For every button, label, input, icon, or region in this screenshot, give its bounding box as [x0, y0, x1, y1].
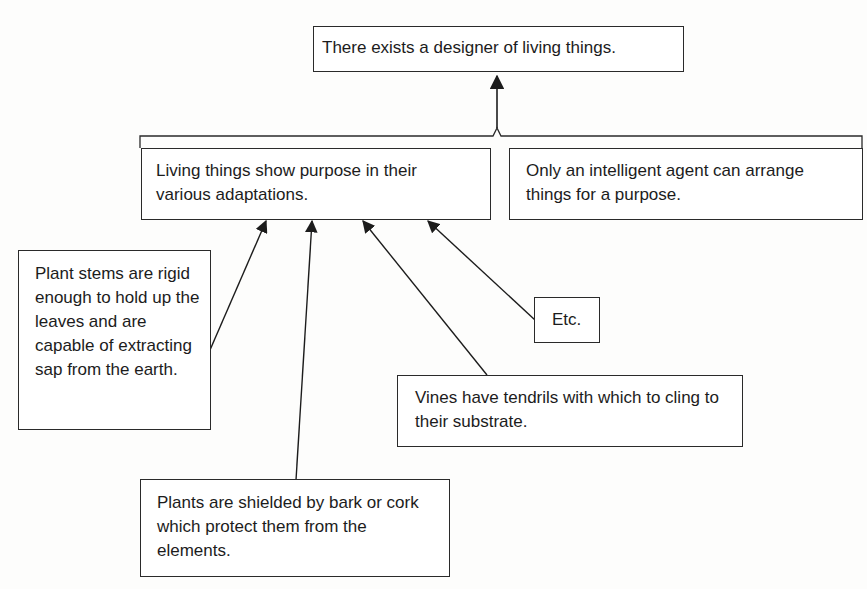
support-box-vines: Vines have tendrils with which to cling … [397, 375, 743, 447]
support-box-bark: Plants are shielded by bark or cork whic… [140, 479, 450, 577]
support-box-etc: Etc. [534, 297, 600, 343]
premise-box-purpose: Living things show purpose in their vari… [141, 148, 491, 220]
premise-box-intelligent-agent: Only an intelligent agent can arrange th… [509, 148, 863, 220]
argument-diagram: There exists a designer of living things… [0, 0, 867, 589]
support-text: Plant stems are rigid enough to hold up … [35, 264, 199, 379]
support-text: Plants are shielded by bark or cork whic… [157, 493, 419, 560]
support-text: Vines have tendrils with which to cling … [415, 388, 719, 431]
conclusion-box: There exists a designer of living things… [313, 26, 684, 72]
support-box-plant-stems: Plant stems are rigid enough to hold up … [18, 250, 211, 430]
conclusion-text: There exists a designer of living things… [322, 38, 616, 57]
support-text: Etc. [552, 310, 581, 329]
premise-text: Living things show purpose in their vari… [156, 161, 417, 204]
premise-text: Only an intelligent agent can arrange th… [526, 161, 804, 204]
